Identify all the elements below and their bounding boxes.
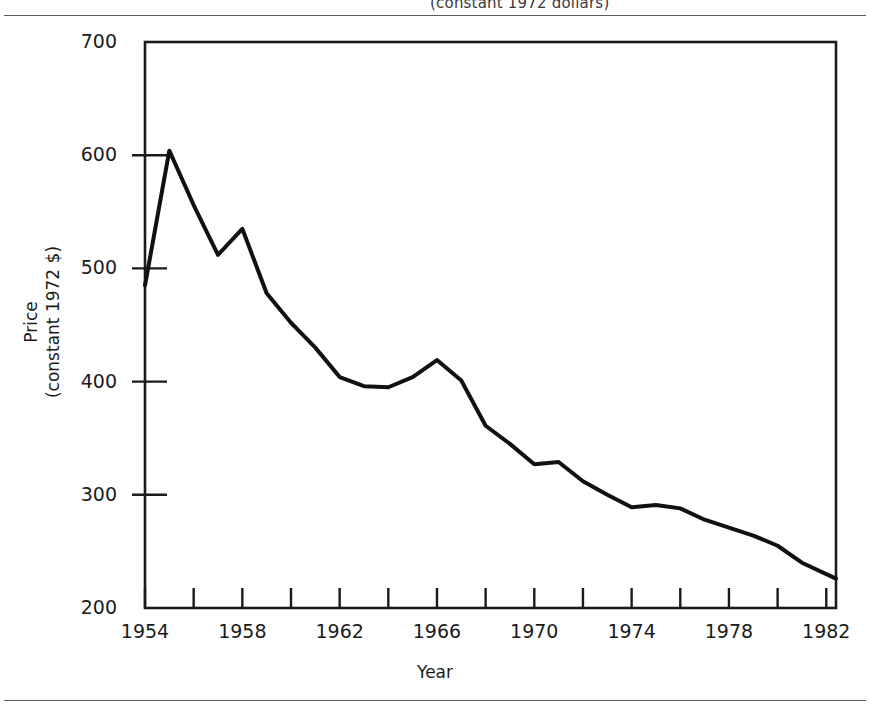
- x-axis-tick-label: 1954: [110, 622, 180, 641]
- x-axis-tick-label: 1978: [694, 622, 764, 641]
- x-axis-tick-label: 1962: [305, 622, 375, 641]
- x-axis-tick-label: 1970: [499, 622, 569, 641]
- plot-frame-box: [145, 42, 836, 608]
- x-axis-tick-label: 1982: [791, 622, 861, 641]
- x-axis-tick-label: 1966: [402, 622, 472, 641]
- x-axis-title: Year: [0, 662, 870, 682]
- y-axis-tick-label: 300: [61, 485, 117, 504]
- plot-frame: [145, 42, 836, 608]
- y-axis-tick-label: 500: [61, 258, 117, 277]
- line-chart-plot: 200300400500600700 195419581962196619701…: [0, 0, 870, 716]
- data-series-group: [145, 151, 836, 579]
- y-axis-tick-label: 600: [61, 145, 117, 164]
- y-axis-title: Price (constant 1972 $): [20, 222, 64, 422]
- x-axis-tick-label: 1958: [207, 622, 277, 641]
- x-axis-tick-label: 1974: [597, 622, 667, 641]
- chart-svg: [0, 0, 870, 716]
- y-axis-title-line2: (constant 1972 $): [42, 222, 64, 422]
- y-axis-tick-label: 200: [61, 598, 117, 617]
- y-axis-tick-label: 400: [61, 372, 117, 391]
- y-axis-title-line1: Price: [20, 222, 42, 422]
- y-axis-ticks: [132, 155, 167, 495]
- figure-container: (constant 1972 dollars) 2003004005006007…: [0, 0, 870, 716]
- price-line-series: [145, 151, 836, 579]
- x-axis-ticks: [145, 588, 826, 608]
- y-axis-tick-label: 700: [61, 32, 117, 51]
